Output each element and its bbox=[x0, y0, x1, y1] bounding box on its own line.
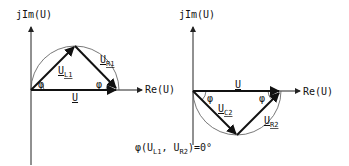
left-y-axis-label: jIm(U) bbox=[16, 9, 52, 20]
label-u-left: U bbox=[72, 92, 78, 103]
left-phi-1: φ bbox=[38, 79, 44, 90]
right-angle-arc-1 bbox=[202, 91, 206, 100]
label-u-right: U bbox=[235, 79, 241, 90]
right-phi-1: φ bbox=[207, 93, 213, 104]
label-uc2: UC2 bbox=[218, 103, 232, 117]
left-phi-2: φ bbox=[96, 79, 102, 90]
right-y-axis-label: jIm(U) bbox=[179, 9, 215, 20]
phasor-diagrams: jIm(U) Re(U) φ φ UL1 UR1 U jIm(U) Re(U) … bbox=[0, 0, 349, 166]
label-ur2: UR2 bbox=[264, 115, 278, 129]
left-locus-arc bbox=[31, 46, 119, 90]
right-angle-arc-2 bbox=[268, 91, 272, 100]
label-ul1: UL1 bbox=[58, 65, 72, 79]
left-x-axis-label: Re(U) bbox=[145, 84, 175, 95]
right-phi-2: φ bbox=[259, 93, 265, 104]
label-ur1: UR1 bbox=[100, 54, 114, 68]
right-diagram: jIm(U) Re(U) φ φ UC2 UR2 U bbox=[179, 9, 333, 145]
right-x-axis-label: Re(U) bbox=[303, 86, 333, 97]
phase-caption: φ(UL1, UR2)=0° bbox=[135, 142, 212, 156]
